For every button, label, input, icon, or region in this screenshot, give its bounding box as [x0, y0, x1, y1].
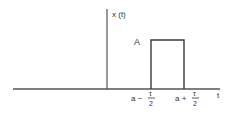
- left-edge-frac-num: τ: [149, 90, 152, 97]
- right-edge-frac-num: τ: [193, 90, 196, 97]
- left-edge-frac-den: 2: [149, 100, 153, 107]
- left-edge-prefix: a −: [131, 94, 143, 103]
- t-axis-label: t: [217, 91, 220, 100]
- right-edge-frac-den: 2: [193, 100, 197, 107]
- pulse-diagram: x (t) A t a − τ 2 a + τ 2: [0, 0, 237, 116]
- rectangular-pulse: [151, 40, 184, 89]
- left-edge-label: a − τ 2: [131, 90, 155, 107]
- amplitude-label: A: [134, 37, 140, 47]
- right-edge-prefix: a +: [175, 94, 187, 103]
- right-edge-label: a + τ 2: [175, 90, 199, 107]
- y-axis-label: x (t): [112, 10, 126, 19]
